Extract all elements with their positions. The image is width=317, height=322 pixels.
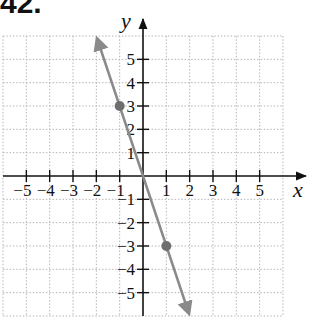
x-tick-label: 1 (162, 181, 171, 200)
coordinate-plane: −5−4−3−2−11234554321−1−2−3−4−5xy (0, 0, 317, 322)
x-tick-label: −2 (83, 181, 101, 200)
x-axis-label: x (292, 177, 303, 202)
x-tick-label: −3 (60, 181, 78, 200)
y-tick-label: −4 (117, 260, 136, 279)
plotted-point (115, 101, 125, 111)
x-tick-label: 4 (232, 181, 241, 200)
plotted-point (161, 241, 171, 251)
x-tick-label: 2 (185, 181, 194, 200)
x-tick-label: −4 (37, 181, 56, 200)
y-tick-label: −2 (117, 214, 135, 233)
x-tick-label: 5 (255, 181, 264, 200)
x-tick-label: −5 (13, 181, 31, 200)
x-tick-label: 3 (209, 181, 218, 200)
y-tick-label: −3 (117, 237, 135, 256)
y-axis-label: y (119, 8, 131, 33)
y-tick-label: 3 (127, 97, 136, 116)
y-tick-label: 5 (127, 50, 136, 69)
y-tick-label: 4 (127, 74, 136, 93)
y-tick-label: −5 (117, 284, 135, 303)
y-tick-label: −1 (117, 190, 135, 209)
